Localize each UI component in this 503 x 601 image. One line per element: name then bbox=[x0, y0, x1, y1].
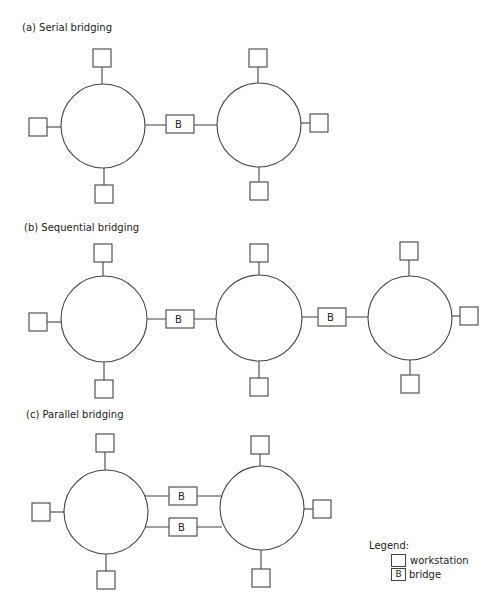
diagram-a: (a) Serial bridgingB bbox=[22, 22, 328, 203]
bridge-node: B bbox=[318, 308, 346, 326]
legend-label-bridge: bridge bbox=[409, 569, 441, 580]
legend-label-workstation: workstation bbox=[410, 555, 469, 566]
ring-network-2 bbox=[216, 275, 302, 361]
workstation-icon bbox=[95, 380, 113, 398]
workstation-icon bbox=[249, 49, 267, 67]
diagram-title: (b) Sequential bridging bbox=[24, 222, 139, 233]
workstation-icon bbox=[251, 436, 269, 454]
workstation-icon bbox=[310, 114, 328, 132]
ring-network-1 bbox=[61, 84, 145, 168]
workstation-icon bbox=[400, 242, 418, 260]
bridge-node: B bbox=[169, 487, 197, 505]
bridge-label: B bbox=[175, 314, 182, 325]
workstation-icon bbox=[460, 307, 478, 325]
workstation-icon bbox=[313, 500, 331, 518]
diagram-title: (c) Parallel bridging bbox=[26, 409, 124, 420]
bridge-node: B bbox=[166, 310, 194, 328]
workstation-icon bbox=[250, 244, 268, 262]
bridge-symbol-icon: B bbox=[391, 568, 406, 581]
bridge-label: B bbox=[175, 119, 182, 130]
legend: Legend: workstation B bridge bbox=[369, 540, 499, 590]
workstation-icon bbox=[29, 313, 47, 331]
workstation-icon bbox=[252, 569, 270, 587]
legend-item-bridge: B bridge bbox=[391, 567, 441, 581]
workstation-icon bbox=[32, 503, 50, 521]
workstation-icon bbox=[250, 378, 268, 396]
workstation-icon bbox=[97, 571, 115, 589]
diagram-c: (c) Parallel bridgingBB bbox=[26, 409, 331, 589]
ring-network-1 bbox=[64, 470, 148, 554]
workstation-symbol-icon bbox=[391, 554, 406, 567]
workstation-icon bbox=[250, 182, 268, 200]
workstation-icon bbox=[95, 185, 113, 203]
workstation-icon bbox=[94, 244, 112, 262]
ring-network-3 bbox=[368, 276, 452, 360]
ring-network-2 bbox=[217, 83, 301, 167]
bridge-label: B bbox=[178, 491, 185, 502]
workstation-icon bbox=[93, 49, 111, 67]
bridge-node: B bbox=[169, 518, 197, 536]
legend-item-workstation: workstation bbox=[391, 553, 469, 567]
bridge-label: B bbox=[327, 312, 334, 323]
diagram-b: (b) Sequential bridgingBB bbox=[24, 222, 478, 398]
bridge-label: B bbox=[178, 522, 185, 533]
workstation-icon bbox=[29, 118, 47, 136]
ring-network-2 bbox=[220, 466, 304, 550]
ring-network-1 bbox=[61, 276, 147, 362]
diagram-title: (a) Serial bridging bbox=[22, 22, 112, 33]
legend-title: Legend: bbox=[369, 540, 409, 551]
bridging-diagram-canvas: (a) Serial bridgingB(b) Sequential bridg… bbox=[0, 0, 503, 601]
workstation-icon bbox=[96, 434, 114, 452]
workstation-icon bbox=[401, 375, 419, 393]
bridge-node: B bbox=[166, 115, 194, 133]
